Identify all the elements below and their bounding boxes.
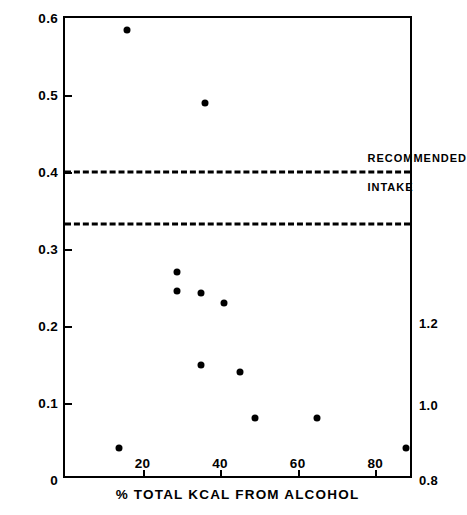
y-tick-label: 0.6 <box>38 11 58 26</box>
right-axis-label: 1.0 <box>419 398 438 413</box>
y-tick-label: 0.4 <box>38 165 58 180</box>
x-tick-mark <box>220 470 222 477</box>
x-tick-label: 20 <box>135 456 151 471</box>
y-tick-label: 0.1 <box>38 396 58 411</box>
data-point <box>197 361 204 368</box>
x-tick-label: 80 <box>367 456 383 471</box>
plot-area: 00.10.20.30.40.50.6 20406080 0.81.01.2 R… <box>63 16 412 478</box>
reference-line <box>65 222 410 225</box>
y-tick-label: 0 <box>50 473 58 488</box>
y-tick-mark <box>64 326 72 328</box>
right-axis-label: 1.2 <box>419 316 438 331</box>
x-tick-label: 60 <box>290 456 306 471</box>
x-tick-mark <box>375 470 377 477</box>
data-point <box>174 269 181 276</box>
data-point <box>314 415 321 422</box>
data-point <box>116 444 123 451</box>
y-tick-mark <box>64 249 72 251</box>
data-point <box>236 369 243 376</box>
y-tick-label: 0.2 <box>38 319 58 334</box>
data-point <box>174 288 181 295</box>
annotation-label: RECOMMENDED <box>367 152 467 164</box>
reference-line <box>65 171 410 174</box>
data-point <box>252 415 259 422</box>
data-point <box>403 444 410 451</box>
y-tick-label: 0.3 <box>38 242 58 257</box>
data-point <box>201 99 208 106</box>
x-tick-label: 40 <box>212 456 228 471</box>
x-tick-mark <box>298 470 300 477</box>
annotation-label: INTAKE <box>367 181 413 193</box>
y-tick-label: 0.5 <box>38 88 58 103</box>
x-axis-title: % TOTAL KCAL FROM ALCOHOL <box>63 487 412 502</box>
data-point <box>220 299 227 306</box>
data-point <box>197 289 204 296</box>
right-axis-label: 0.8 <box>419 473 438 488</box>
y-tick-mark <box>64 95 72 97</box>
y-tick-mark <box>64 403 72 405</box>
x-tick-mark <box>143 470 145 477</box>
data-point <box>124 26 131 33</box>
